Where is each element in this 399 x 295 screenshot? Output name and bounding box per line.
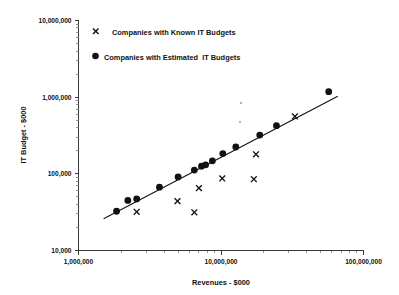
series-estimated-markers xyxy=(113,88,332,214)
data-point-estimated xyxy=(232,144,239,151)
y-tick-label: 1,000,000 xyxy=(42,94,72,102)
x-tick-label: 10,000,000 xyxy=(204,258,237,266)
y-tick-label: 10,000 xyxy=(51,247,72,255)
legend-marker-circle-icon xyxy=(92,53,99,60)
y-axis-ticks xyxy=(75,21,79,251)
data-point-known xyxy=(134,209,140,215)
data-point-estimated xyxy=(175,174,182,181)
data-point-estimated xyxy=(209,157,216,164)
speck-artifact-lower xyxy=(239,121,241,123)
data-point-known xyxy=(175,198,181,204)
data-point-known xyxy=(219,176,225,182)
x-tick-label: 100,000,000 xyxy=(345,258,382,266)
data-point-known xyxy=(191,209,197,215)
y-tick-label: 10,000,000 xyxy=(38,17,71,25)
chart-container: 10,000100,0001,000,00010,000,000 1,000,0… xyxy=(0,0,399,295)
legend-label-estimated: Companies with Estimated IT Budgets xyxy=(104,54,240,61)
data-point-known xyxy=(253,151,259,157)
data-point-estimated xyxy=(325,88,332,95)
data-point-estimated xyxy=(273,122,280,129)
data-point-known xyxy=(196,185,202,191)
data-point-estimated xyxy=(156,184,163,191)
data-point-estimated xyxy=(113,208,120,215)
data-point-estimated xyxy=(219,150,226,157)
x-axis-title: Revenues - $000 xyxy=(192,278,250,287)
legend-label-known: Companies with Known IT Budgets xyxy=(112,29,236,36)
x-axis-tick-labels: 1,000,00010,000,000100,000,000 xyxy=(64,258,382,266)
legend-marker-x-icon xyxy=(93,29,99,35)
series-known-markers xyxy=(134,114,298,216)
x-axis-ticks xyxy=(79,251,364,255)
scatter-plot-canvas: 10,000100,0001,000,00010,000,000 1,000,0… xyxy=(0,0,399,295)
y-axis-tick-labels: 10,000100,0001,000,00010,000,000 xyxy=(38,17,71,255)
data-point-estimated xyxy=(202,161,209,168)
data-point-estimated xyxy=(256,132,263,139)
y-axis-title: IT Budget - $000 xyxy=(19,106,28,163)
data-point-estimated xyxy=(191,167,198,174)
speck-artifact-upper xyxy=(240,102,242,104)
data-point-estimated xyxy=(124,197,131,204)
x-tick-label: 1,000,000 xyxy=(64,258,94,266)
data-point-known xyxy=(251,176,257,182)
scan-artifacts xyxy=(239,102,242,123)
legend-markers xyxy=(92,29,99,60)
data-point-estimated xyxy=(133,196,140,203)
y-tick-label: 100,000 xyxy=(48,170,72,178)
